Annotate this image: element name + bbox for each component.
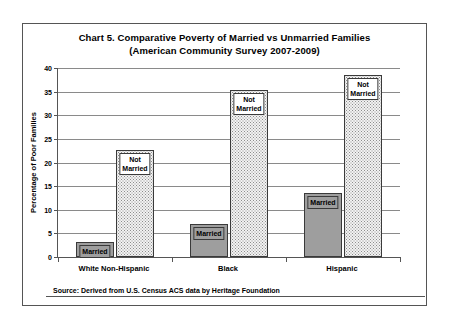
y-axis-tick-mark [54,163,58,164]
y-axis-title: Percentage of Poor Families [28,68,40,257]
bar-married: Married [76,242,114,257]
y-axis-tick-mark [54,115,58,116]
y-axis-tick-mark [54,210,58,211]
y-axis-tick-label: 40 [44,65,52,72]
bar-value-label: Married [307,196,338,209]
bar-not-married: NotMarried [230,90,268,257]
x-axis-tick-mark [400,257,401,262]
y-axis-tick-label: 0 [48,254,52,261]
x-axis-category-label: White Non-Hispanic [57,264,171,273]
y-axis-tick-label: 30 [44,112,52,119]
y-axis-tick-label: 15 [44,183,52,190]
plot-area: 0510152025303540MarriedNotMarriedMarried… [57,68,400,258]
x-axis-tick-mark [172,257,173,262]
y-axis-tick-label: 5 [48,230,52,237]
y-axis-tick-label: 25 [44,135,52,142]
y-axis-tick-label: 20 [44,159,52,166]
y-axis-tick-label: 35 [44,88,52,95]
chart-title: Chart 5. Comparative Poverty of Married … [23,31,426,57]
bar-not-married: NotMarried [116,150,154,257]
y-axis-tick-mark [54,139,58,140]
bar-value-label: Married [193,227,224,240]
y-axis-tick-mark [54,233,58,234]
x-axis-category-label: Hispanic [285,264,399,273]
x-axis-category-label: Black [171,264,285,273]
y-axis-tick-mark [54,92,58,93]
source-divider [46,296,425,297]
bar-value-label: Married [79,245,110,258]
bar-not-married: NotMarried [344,75,382,257]
chart-title-line1: Chart 5. Comparative Poverty of Married … [23,31,426,44]
gridline [58,68,400,69]
bar-married: Married [190,224,228,257]
bar-value-label: NotMarried [347,78,378,100]
source-note: Source: Derived from U.S. Census ACS dat… [53,287,280,294]
x-axis-tick-mark [286,257,287,262]
bar-value-label: NotMarried [233,93,264,115]
chart-title-line2: (American Community Survey 2007-2009) [23,44,426,57]
y-axis-tick-mark [54,68,58,69]
bar-married: Married [304,193,342,257]
y-axis-tick-label: 10 [44,206,52,213]
y-axis-tick-mark [54,186,58,187]
x-axis-tick-mark [58,257,59,262]
bar-value-label: NotMarried [119,153,150,175]
